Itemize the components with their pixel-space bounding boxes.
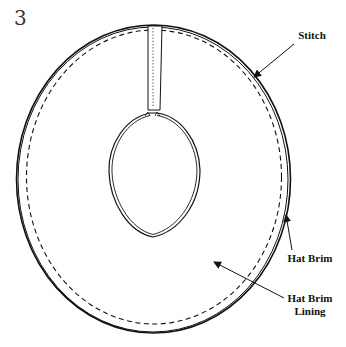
stitch-label: Stitch [292,29,332,42]
hat-brim-lining-label-line2: Lining [284,305,336,318]
hat-brim-arrow [286,215,292,250]
hat-brim-lining-arrow [214,262,284,298]
head-opening [109,113,200,237]
step-number: 3 [14,6,27,30]
stitch-arrow [254,44,294,77]
hat-brim-lining-label: Hat Brim Lining [284,292,336,318]
hat-brim-label: Hat Brim [284,252,336,265]
brim-strip [145,26,162,116]
hat-brim-lining-label-line1: Hat Brim [284,292,336,305]
